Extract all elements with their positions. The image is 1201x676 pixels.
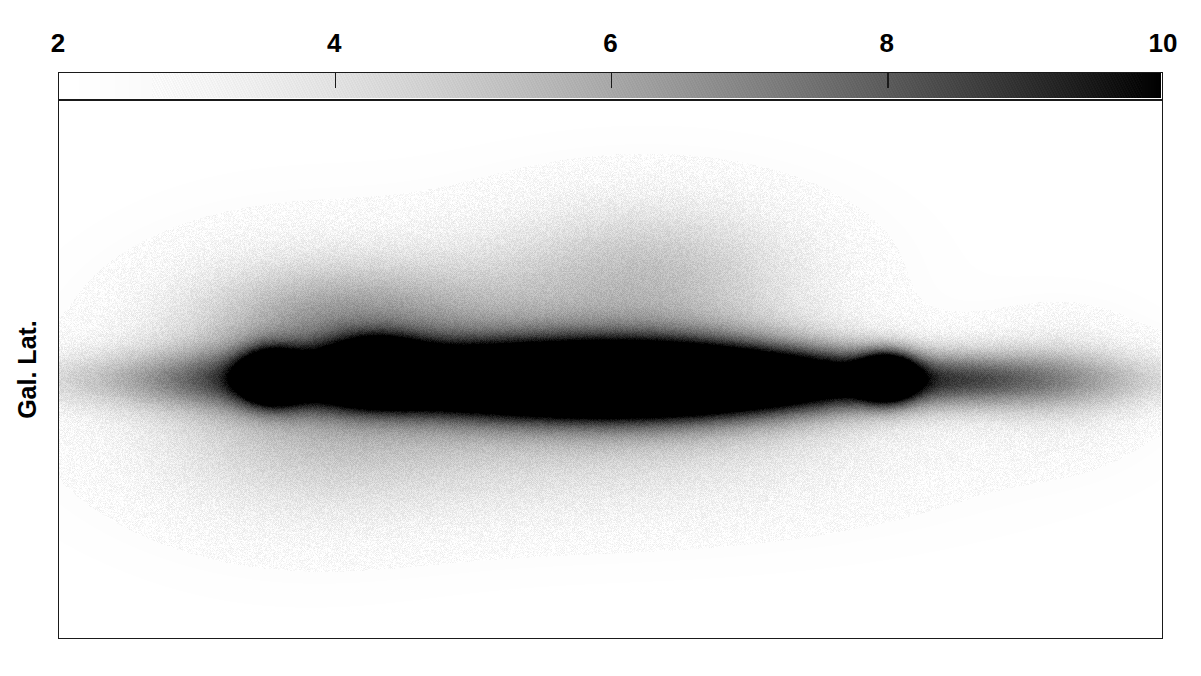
colorbar-label-2: 2 — [13, 30, 103, 56]
plot-area — [58, 100, 1163, 639]
colorbar-label-4: 4 — [289, 30, 379, 56]
figure-root: 246810 Gal. Lat. — [0, 0, 1201, 676]
y-axis-title: Gal. Lat. — [15, 269, 40, 469]
colorbar-label-10: 10 — [1118, 30, 1201, 56]
colorbar-tick-8 — [887, 73, 889, 88]
intensity-map-image — [59, 101, 1161, 637]
colorbar-tick-6 — [611, 73, 613, 88]
colorbar-label-8: 8 — [842, 30, 932, 56]
colorbar-tick-4 — [335, 73, 337, 88]
colorbar — [58, 72, 1163, 100]
colorbar-label-6: 6 — [566, 30, 656, 56]
